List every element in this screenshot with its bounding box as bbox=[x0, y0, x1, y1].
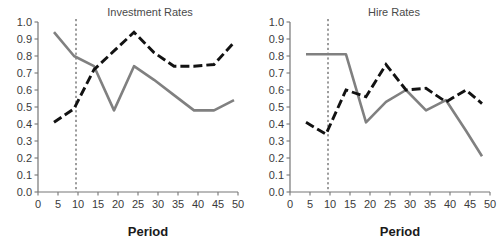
x-tick-label: 45 bbox=[464, 198, 476, 210]
y-tick-label: 0.5 bbox=[269, 101, 284, 113]
x-tick-label: 25 bbox=[384, 198, 396, 210]
x-tick-label: 15 bbox=[344, 198, 356, 210]
y-tick-label: 0.2 bbox=[269, 152, 284, 164]
x-axis-group: 05101520253035404550 bbox=[35, 192, 244, 210]
x-tick-label: 0 bbox=[35, 198, 41, 210]
x-tick-label: 15 bbox=[92, 198, 104, 210]
y-tick-label: 0.0 bbox=[17, 186, 32, 198]
chart-hire-rates: Hire Rates 0.00.10.20.30.40.50.60.70.80.… bbox=[252, 0, 504, 243]
x-tick-label: 30 bbox=[152, 198, 164, 210]
y-tick-label: 0.9 bbox=[269, 33, 284, 45]
y-tick-label: 0.4 bbox=[269, 118, 284, 130]
y-tick-label: 0.6 bbox=[269, 84, 284, 96]
x-tick-label: 40 bbox=[444, 198, 456, 210]
x-tick-label: 45 bbox=[212, 198, 224, 210]
y-tick-label: 0.9 bbox=[17, 33, 32, 45]
y-tick-label: 0.7 bbox=[17, 67, 32, 79]
y-tick-label: 0.4 bbox=[17, 118, 32, 130]
y-tick-label: 0.0 bbox=[269, 186, 284, 198]
x-tick-label: 20 bbox=[364, 198, 376, 210]
y-tick-label: 0.1 bbox=[17, 169, 32, 181]
x-axis-group: 05101520253035404550 bbox=[287, 192, 496, 210]
y-axis-group: 0.00.10.20.30.40.50.60.70.80.91.0 bbox=[17, 16, 38, 198]
x-tick-label: 40 bbox=[192, 198, 204, 210]
x-tick-label: 50 bbox=[484, 198, 496, 210]
x-tick-label: 20 bbox=[112, 198, 124, 210]
series-black-dashed bbox=[306, 65, 482, 135]
series-gray-solid bbox=[306, 54, 482, 156]
x-tick-label: 5 bbox=[307, 198, 313, 210]
x-tick-label: 10 bbox=[324, 198, 336, 210]
y-tick-label: 1.0 bbox=[17, 16, 32, 28]
x-tick-label: 5 bbox=[55, 198, 61, 210]
figure-two-panel-line-charts: Investment Rates 0.00.10.20.30.40.50.60.… bbox=[0, 0, 504, 243]
x-tick-label: 35 bbox=[424, 198, 436, 210]
panel-title: Investment Rates bbox=[107, 6, 193, 18]
y-tick-label: 0.2 bbox=[17, 152, 32, 164]
panel-hire-rates: Hire Rates 0.00.10.20.30.40.50.60.70.80.… bbox=[252, 0, 504, 243]
chart-investment-rates: Investment Rates 0.00.10.20.30.40.50.60.… bbox=[0, 0, 252, 243]
x-axis-title: Period bbox=[128, 224, 169, 239]
y-tick-label: 0.3 bbox=[17, 135, 32, 147]
panel-title: Hire Rates bbox=[368, 6, 420, 18]
y-tick-label: 0.1 bbox=[269, 169, 284, 181]
x-tick-label: 25 bbox=[132, 198, 144, 210]
y-tick-label: 0.8 bbox=[17, 50, 32, 62]
y-tick-label: 0.7 bbox=[269, 67, 284, 79]
panel-investment-rates: Investment Rates 0.00.10.20.30.40.50.60.… bbox=[0, 0, 252, 243]
y-tick-label: 0.3 bbox=[269, 135, 284, 147]
series-black-dashed bbox=[54, 32, 234, 122]
y-tick-label: 0.8 bbox=[269, 50, 284, 62]
y-axis-group: 0.00.10.20.30.40.50.60.70.80.91.0 bbox=[269, 16, 290, 198]
x-tick-label: 35 bbox=[172, 198, 184, 210]
x-tick-label: 0 bbox=[287, 198, 293, 210]
y-tick-label: 1.0 bbox=[269, 16, 284, 28]
y-tick-label: 0.5 bbox=[17, 101, 32, 113]
x-tick-label: 10 bbox=[72, 198, 84, 210]
y-tick-label: 0.6 bbox=[17, 84, 32, 96]
x-axis-title: Period bbox=[380, 224, 421, 239]
x-tick-label: 50 bbox=[232, 198, 244, 210]
x-tick-label: 30 bbox=[404, 198, 416, 210]
